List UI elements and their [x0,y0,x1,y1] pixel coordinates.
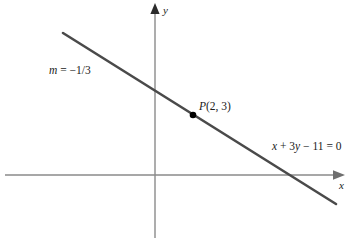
coordinate-plane-figure [0,0,360,242]
equation-remainder: − 11 = 0 [300,140,341,152]
point-marker-p [190,112,197,119]
y-axis-label: y [163,5,168,16]
slope-annotation: m = −1/3 [49,65,91,77]
figure-background [0,0,360,242]
point-variable: P [199,100,206,112]
equation-annotation: x + 3y − 11 = 0 [272,141,342,153]
point-annotation: P(2, 3) [199,101,231,113]
slope-value: = −1/3 [57,64,90,76]
equation-operator-plus: + 3 [277,140,295,152]
x-axis-label: x [339,180,344,191]
point-coordinates: (2, 3) [206,100,231,112]
